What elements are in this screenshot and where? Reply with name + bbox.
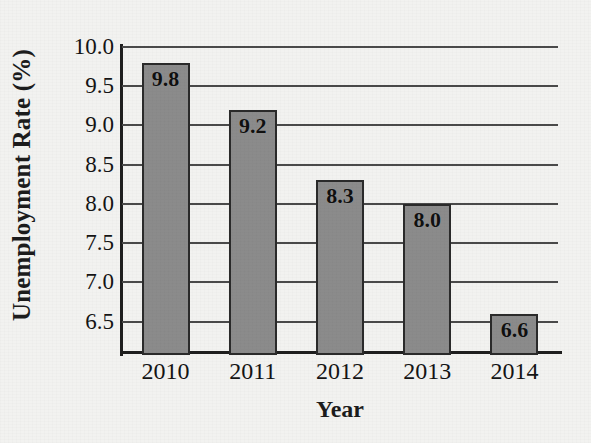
x-axis-tick-label: 2010 bbox=[142, 358, 190, 385]
plot-area: 9.89.28.38.06.6 bbox=[122, 47, 558, 353]
bar-value-label: 9.8 bbox=[152, 68, 180, 90]
bar-value-label: 6.6 bbox=[501, 319, 529, 341]
bar: 9.8 bbox=[142, 63, 190, 355]
chart-figure: Unemployment Rate (%) 10.09.59.08.58.07.… bbox=[0, 0, 591, 443]
y-axis-tick-label: 6.5 bbox=[44, 309, 114, 335]
y-axis-tick-label: 8.5 bbox=[44, 152, 114, 178]
gridline bbox=[122, 46, 558, 48]
bar: 6.6 bbox=[490, 314, 538, 355]
y-axis-tick-label: 7.5 bbox=[44, 230, 114, 256]
bar-value-label: 9.2 bbox=[239, 115, 267, 137]
y-axis-tick-labels: 10.09.59.08.58.07.57.06.5 bbox=[44, 0, 118, 443]
bar: 8.0 bbox=[403, 204, 451, 355]
x-axis-title: Year bbox=[122, 396, 558, 423]
y-axis-title: Unemployment Rate (%) bbox=[0, 0, 44, 370]
x-axis-tick-label: 2012 bbox=[316, 358, 364, 385]
x-axis-tick-label: 2011 bbox=[229, 358, 276, 385]
y-axis-tick-label: 9.0 bbox=[44, 112, 114, 138]
x-axis-tick-label: 2013 bbox=[403, 358, 451, 385]
x-axis-tick-labels: 20102011201220132014 bbox=[122, 358, 558, 394]
y-axis-tick-label: 8.0 bbox=[44, 191, 114, 217]
y-axis-tick-label: 7.0 bbox=[44, 269, 114, 295]
bar: 8.3 bbox=[316, 180, 364, 355]
bar: 9.2 bbox=[229, 110, 277, 355]
bar-value-label: 8.3 bbox=[326, 185, 354, 207]
y-axis-tick-label: 10.0 bbox=[44, 34, 114, 60]
x-axis-tick-label: 2014 bbox=[490, 358, 538, 385]
y-axis-tick-label: 9.5 bbox=[44, 73, 114, 99]
y-axis-title-text: Unemployment Rate (%) bbox=[8, 49, 36, 321]
bar-value-label: 8.0 bbox=[413, 209, 441, 231]
